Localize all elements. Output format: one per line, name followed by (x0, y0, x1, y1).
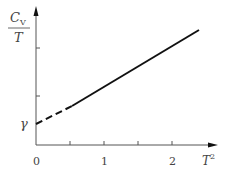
ylabel-denominator: T (14, 30, 24, 45)
extrapolated-dashed-line (36, 106, 72, 124)
xlabel: T2 (202, 152, 215, 168)
measured-solid-line (72, 30, 199, 106)
chart: CV T γ 0 1 2 T2 (0, 0, 230, 174)
ylabel-numerator: CV (10, 10, 26, 27)
x-tick-label-0: 0 (33, 155, 40, 168)
gamma-intercept-label: γ (20, 116, 28, 131)
y-axis-arrow-icon (34, 6, 39, 16)
x-tick-label-2: 2 (169, 155, 176, 168)
x-axis-arrow-icon (208, 143, 218, 148)
x-tick-label-1: 1 (101, 155, 108, 168)
